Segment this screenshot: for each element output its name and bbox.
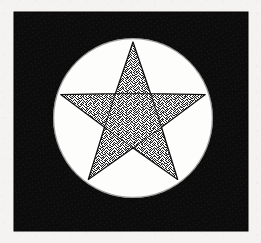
image-canvas (0, 0, 261, 243)
star-artwork (0, 0, 261, 243)
